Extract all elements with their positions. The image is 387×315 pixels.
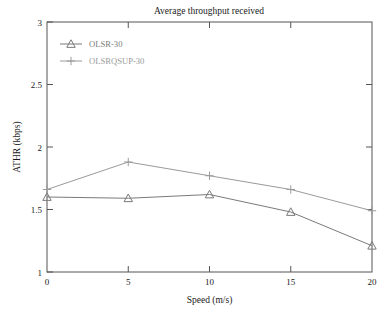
- legend-label: OLSR-30: [89, 39, 122, 49]
- chart-title: Average throughput received: [154, 6, 264, 16]
- x-axis-label: Speed (m/s): [187, 295, 233, 306]
- y-tick-label-2_5: 2.5: [31, 80, 43, 90]
- y-axis-label: ATHR (kbps): [12, 121, 23, 172]
- line-chart-canvas: Average throughput received 1 1.5 2 2.5 …: [0, 0, 387, 315]
- x-tick-label-5: 5: [126, 277, 131, 287]
- chart-figure: Average throughput received 1 1.5 2 2.5 …: [0, 0, 387, 315]
- legend-label: OLSRQSUP-30: [89, 56, 144, 66]
- y-tick-label-1: 1: [38, 268, 43, 278]
- x-tick-label-20: 20: [368, 277, 378, 287]
- x-tick-label-10: 10: [205, 277, 215, 287]
- x-tick-label-0: 0: [45, 277, 50, 287]
- y-tick-label-2: 2: [38, 143, 43, 153]
- x-tick-label-15: 15: [286, 277, 296, 287]
- y-tick-label-1_5: 1.5: [31, 205, 43, 215]
- y-tick-label-3: 3: [38, 18, 43, 28]
